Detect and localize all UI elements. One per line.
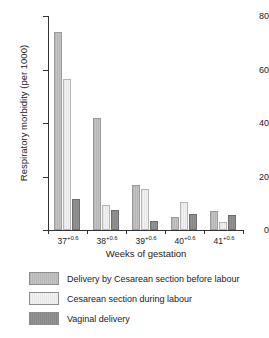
bars-layer <box>0 16 269 230</box>
x-label-base-39: 39 <box>136 236 145 246</box>
bar-38-cesarean-during-labour <box>102 205 110 230</box>
bar-41-cesarean-during-labour <box>219 222 227 230</box>
x-tick-label-41: 41+0.6 <box>202 233 246 246</box>
bar-41-cesarean-before-labour <box>210 211 218 230</box>
plot-area: Respiratory morbidity (per 1000) 0 20 40… <box>0 0 269 262</box>
bar-group-41 <box>210 16 238 230</box>
x-label-sup-39: +0.6 <box>145 235 156 241</box>
bar-37-vaginal-delivery <box>72 199 80 230</box>
bar-39-cesarean-during-labour <box>141 189 149 230</box>
bar-group-40 <box>171 16 199 230</box>
x-tick-label-37: 37+0.6 <box>46 233 90 246</box>
bar-group-39 <box>132 16 160 230</box>
bar-38-cesarean-before-labour <box>93 118 101 230</box>
x-label-sup-37: +0.6 <box>67 235 78 241</box>
legend-swatch-vaginal-delivery <box>29 312 59 325</box>
bar-41-vaginal-delivery <box>228 215 236 230</box>
x-label-base-40: 40 <box>175 236 184 246</box>
x-tick-label-39: 39+0.6 <box>124 233 168 246</box>
bar-37-cesarean-before-labour <box>54 32 62 230</box>
legend-item-cesarean-before-labour: Delivery by Cesarean section before labo… <box>0 272 269 292</box>
x-label-sup-38: +0.6 <box>106 235 117 241</box>
bar-40-cesarean-during-labour <box>180 202 188 230</box>
chart-legend: Delivery by Cesarean section before labo… <box>0 272 269 332</box>
x-tick-label-40: 40+0.6 <box>163 233 207 246</box>
bar-39-cesarean-before-labour <box>132 185 140 230</box>
bar-38-vaginal-delivery <box>111 210 119 230</box>
x-label-base-41: 41 <box>214 236 223 246</box>
x-label-sup-40: +0.6 <box>184 235 195 241</box>
bar-group-38 <box>93 16 121 230</box>
legend-label-vaginal-delivery: Vaginal delivery <box>67 312 130 326</box>
legend-label-cesarean-during-labour: Cesarean section during labour <box>67 292 192 306</box>
x-axis-line <box>48 230 244 231</box>
legend-swatch-cesarean-during-labour <box>29 292 59 305</box>
x-axis-title: Weeks of gestation <box>48 248 244 259</box>
x-tick-label-38: 38+0.6 <box>85 233 129 246</box>
x-label-base-37: 37 <box>58 236 67 246</box>
bar-40-vaginal-delivery <box>189 214 197 230</box>
x-label-sup-41: +0.6 <box>223 235 234 241</box>
bar-39-vaginal-delivery <box>150 221 158 230</box>
x-label-base-38: 38 <box>97 236 106 246</box>
legend-swatch-cesarean-before-labour <box>29 272 59 285</box>
bar-group-37 <box>54 16 82 230</box>
legend-item-vaginal-delivery: Vaginal delivery <box>0 312 269 332</box>
bar-40-cesarean-before-labour <box>171 217 179 230</box>
legend-label-cesarean-before-labour: Delivery by Cesarean section before labo… <box>67 272 240 286</box>
respiratory-morbidity-bar-chart: Respiratory morbidity (per 1000) 0 20 40… <box>0 0 269 338</box>
bar-37-cesarean-during-labour <box>63 79 71 230</box>
legend-item-cesarean-during-labour: Cesarean section during labour <box>0 292 269 312</box>
